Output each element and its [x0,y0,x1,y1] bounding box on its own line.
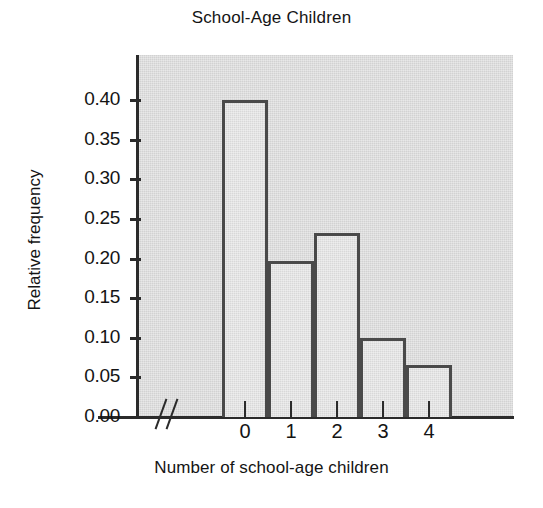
y-axis-tick-label-holder: 0.15 [48,286,120,308]
y-axis-tick-label: 0.25 [48,207,120,229]
y-axis-tick-label-holder: 0.35 [48,128,120,150]
axis-break-slash-1 [155,399,168,430]
x-axis-tick [244,401,246,417]
y-axis-tick-label-holder: 0.40 [48,88,120,110]
y-axis-tick-label-holder: 0.20 [48,247,120,269]
y-axis-tick-label: 0.40 [48,88,120,110]
y-axis-tick-label-holder: 0.10 [48,326,120,348]
x-axis-tick-label: 2 [322,420,352,443]
histogram-bar [314,233,360,417]
x-axis-tick [428,401,430,417]
histogram-bar [268,261,314,417]
y-axis-tick-label-holder: 0.05 [48,365,120,387]
x-axis-tick [290,401,292,417]
axis-break-icon [150,398,190,434]
histogram-bar [222,100,268,417]
chart-title: School-Age Children [0,8,543,28]
y-axis-tick-label: 0.10 [48,326,120,348]
y-axis-tick-label-holder: 0.30 [48,167,120,189]
y-axis-tick-label-holder: 0.25 [48,207,120,229]
x-axis-tick-label: 0 [230,420,260,443]
x-axis-tick-label: 1 [276,420,306,443]
y-axis-tick-label: 0.20 [48,247,120,269]
x-axis-title: Number of school-age children [0,458,543,478]
axis-break-slash-2 [166,399,179,430]
x-axis-tick-label: 3 [368,420,398,443]
y-axis-tick-label: 0.05 [48,365,120,387]
y-axis-tick-label: 0.30 [48,167,120,189]
y-axis-tick-label: 0.35 [48,128,120,150]
x-axis-tick [336,401,338,417]
histogram-figure: School-Age Children 0.000.050.100.150.20… [0,0,543,508]
x-axis-tick-label: 4 [414,420,444,443]
y-axis-title: Relative frequency [25,110,45,370]
y-axis-line [136,55,139,418]
x-axis-tick [382,401,384,417]
y-axis-tick-label: 0.15 [48,286,120,308]
